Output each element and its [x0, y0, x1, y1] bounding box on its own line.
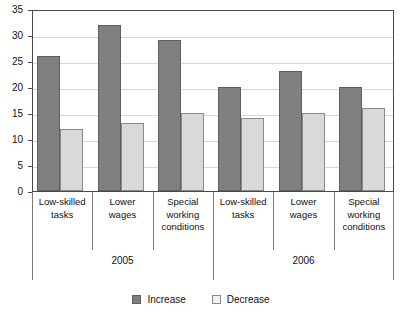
y-tick-label-5: 5	[17, 161, 23, 171]
y-tick-label-20: 20	[12, 83, 23, 93]
category-label-line: tasks	[32, 209, 92, 222]
year-separator-1	[213, 250, 214, 280]
legend-item-decrease[interactable]: Decrease	[212, 294, 270, 305]
y-tick-label-35: 35	[12, 5, 23, 15]
category-label-line: Special	[334, 196, 394, 209]
bar-decrease-4	[302, 113, 325, 191]
legend-swatch-decrease-icon	[212, 295, 221, 304]
bar-increase-1	[98, 25, 121, 191]
category-label-line: wages	[273, 209, 333, 222]
category-label-1: Lowerwages	[92, 192, 152, 250]
category-separator-3	[213, 192, 214, 250]
bar-increase-4	[279, 71, 302, 191]
category-label-4: Lowerwages	[273, 192, 333, 250]
bar-chart: 35 30 25 20 15 10 5 0 Low-skilledtasksLo…	[0, 0, 402, 319]
plot-area	[32, 10, 394, 192]
category-label-line: working	[153, 209, 213, 222]
category-separator-2	[153, 192, 154, 250]
category-separator-5	[334, 192, 335, 250]
bar-decrease-5	[362, 108, 385, 191]
legend-item-increase[interactable]: Increase	[132, 294, 185, 305]
category-separator-1	[92, 192, 93, 250]
category-band-edge-0	[32, 192, 33, 250]
y-tick-label-25: 25	[12, 57, 23, 67]
category-label-line: Low-skilled	[213, 196, 273, 209]
year-label-2006: 2006	[213, 250, 394, 280]
category-label-band: Low-skilledtasksLowerwagesSpecialworking…	[32, 192, 394, 250]
category-label-5: Specialworkingconditions	[334, 192, 394, 250]
bar-increase-5	[339, 87, 362, 191]
legend-swatch-increase-icon	[132, 295, 141, 304]
bar-decrease-2	[181, 113, 204, 191]
bar-decrease-0	[60, 129, 83, 191]
year-label-2005: 2005	[32, 250, 213, 280]
y-tick-label-0: 0	[17, 187, 23, 197]
y-axis: 35 30 25 20 15 10 5 0	[0, 10, 28, 192]
category-label-line: conditions	[153, 221, 213, 234]
category-label-2: Specialworkingconditions	[153, 192, 213, 250]
category-label-line: working	[334, 209, 394, 222]
category-label-0: Low-skilledtasks	[32, 192, 92, 250]
category-label-line: Special	[153, 196, 213, 209]
category-label-line: conditions	[334, 221, 394, 234]
category-label-line: Lower	[92, 196, 152, 209]
bar-increase-3	[218, 87, 241, 191]
legend: Increase Decrease	[0, 289, 402, 309]
bar-increase-2	[158, 40, 181, 191]
category-label-line: wages	[92, 209, 152, 222]
year-separator-2	[393, 250, 394, 280]
category-label-line: Lower	[273, 196, 333, 209]
category-label-3: Low-skilledtasks	[213, 192, 273, 250]
legend-label-decrease: Decrease	[227, 294, 270, 305]
category-band-edge-1	[393, 192, 394, 250]
category-separator-4	[273, 192, 274, 250]
category-label-line: Low-skilled	[32, 196, 92, 209]
category-label-line: tasks	[213, 209, 273, 222]
bars-layer	[33, 11, 393, 191]
y-tick-label-30: 30	[12, 31, 23, 41]
bar-decrease-1	[121, 123, 144, 191]
legend-label-increase: Increase	[147, 294, 185, 305]
y-tick-label-15: 15	[12, 109, 23, 119]
y-tick-label-10: 10	[12, 135, 23, 145]
bar-increase-0	[37, 56, 60, 191]
year-label-band: 20052006	[32, 250, 394, 280]
year-separator-0	[32, 250, 33, 280]
bar-decrease-3	[241, 118, 264, 191]
